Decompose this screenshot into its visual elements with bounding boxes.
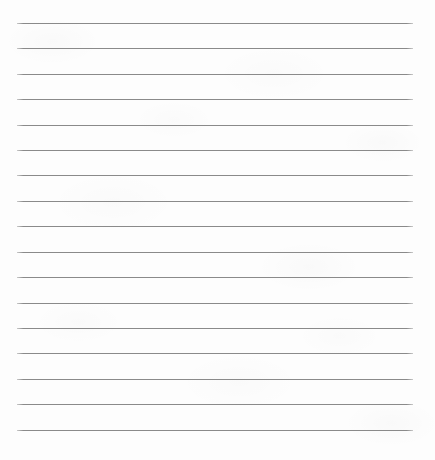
ruled-line	[17, 353, 413, 354]
ruled-line	[17, 379, 413, 380]
ruled-line	[17, 328, 413, 329]
ruled-line	[17, 430, 413, 431]
paper-grain-texture	[0, 0, 435, 460]
ruled-line	[17, 175, 413, 176]
ruled-line	[17, 48, 413, 49]
scanned-page	[0, 0, 435, 460]
ruled-line	[17, 23, 413, 24]
ruled-line	[17, 201, 413, 202]
ruled-line	[17, 226, 413, 227]
ruled-line	[17, 99, 413, 100]
ruled-line	[17, 74, 413, 75]
ruled-line	[17, 125, 413, 126]
ruled-line	[17, 303, 413, 304]
ruled-line	[17, 252, 413, 253]
ruled-line	[17, 404, 413, 405]
ruled-line	[17, 150, 413, 151]
ruled-line	[17, 277, 413, 278]
